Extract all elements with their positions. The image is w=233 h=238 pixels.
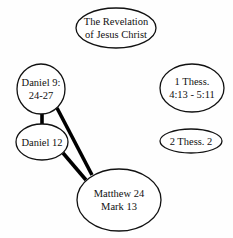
node-label: Daniel 12 (21, 137, 62, 148)
node-revelation: The Revelationof Jesus Christ (76, 8, 156, 48)
node-label: 24-27 (29, 90, 54, 101)
node-daniel12: Daniel 12 (16, 124, 68, 160)
node-label: Matthew 24 (94, 188, 145, 199)
node-ellipse (17, 64, 65, 114)
nodes: The Revelationof Jesus ChristDaniel 9:24… (16, 8, 224, 231)
node-label: of Jesus Christ (85, 29, 147, 40)
diagram-canvas: The Revelationof Jesus ChristDaniel 9:24… (0, 0, 233, 238)
node-label: Mark 13 (101, 201, 137, 212)
node-label: The Revelation (84, 16, 149, 27)
node-thess2: 2 Thess. 2 (160, 129, 222, 153)
node-label: Daniel 9: (22, 77, 61, 88)
node-daniel9: Daniel 9:24-27 (17, 64, 65, 114)
node-ellipse (76, 8, 156, 48)
node-ellipse (160, 64, 224, 112)
diagram-svg: The Revelationof Jesus ChristDaniel 9:24… (0, 0, 233, 238)
node-thess1: 1 Thess.4:13 - 5:11 (160, 64, 224, 112)
node-ellipse (77, 169, 161, 231)
node-label: 1 Thess. (175, 76, 210, 87)
node-label: 4:13 - 5:11 (169, 89, 215, 100)
node-label: 2 Thess. 2 (170, 136, 213, 147)
node-matthew: Matthew 24Mark 13 (77, 169, 161, 231)
